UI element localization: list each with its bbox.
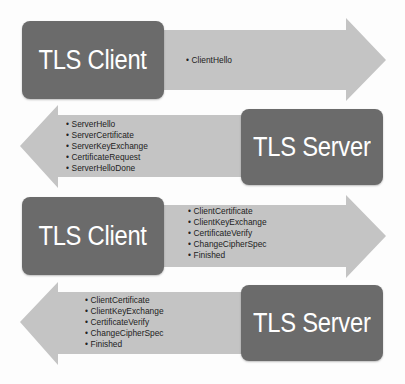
message-item: ServerKeyExchange xyxy=(66,140,148,151)
message-item: Finished xyxy=(85,338,164,349)
tls-server-box-4: TLS Server xyxy=(241,285,383,361)
message-list-3: ClientCertificate ClientKeyExchange Cert… xyxy=(188,205,277,260)
tls-client-box-3: TLS Client xyxy=(22,197,164,275)
message-item: ClientCertificate xyxy=(188,205,267,216)
message-list-4: ClientCertificate ClientKeyExchange Cert… xyxy=(85,294,174,349)
message-item: ClientKeyExchange xyxy=(85,305,164,316)
message-item: ServerCertificate xyxy=(66,129,148,140)
message-item: ChangeCipherSpec xyxy=(85,327,164,338)
actor-label: TLS Server xyxy=(253,308,371,339)
tls-server-box-2: TLS Server xyxy=(241,109,383,185)
message-item: ClientCertificate xyxy=(85,294,164,305)
message-list-2: ServerHello ServerCertificate ServerKeyE… xyxy=(66,118,159,173)
message-item: ClientHello xyxy=(186,54,232,65)
message-item: CertificateRequest xyxy=(66,151,148,162)
message-item: ClientKeyExchange xyxy=(188,216,267,227)
message-item: ChangeCipherSpec xyxy=(188,238,267,249)
tls-client-box-1: TLS Client xyxy=(22,21,164,99)
actor-label: TLS Client xyxy=(39,45,147,76)
message-list-1: ClientHello xyxy=(186,54,238,65)
message-item: CertificateVerify xyxy=(85,316,164,327)
actor-label: TLS Server xyxy=(253,132,371,163)
message-item: CertificateVerify xyxy=(188,227,267,238)
message-item: ServerHello xyxy=(66,118,148,129)
message-item: Finished xyxy=(188,249,267,260)
message-item: ServerHelloDone xyxy=(66,162,148,173)
actor-label: TLS Client xyxy=(39,221,147,252)
